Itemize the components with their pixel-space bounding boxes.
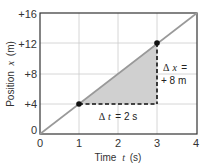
ytick-4: +4: [24, 98, 37, 110]
xtick-3: 3: [154, 137, 160, 149]
xtick-1: 1: [76, 137, 82, 149]
position-time-chart: +16 +12 +8 +4 0 0 1 2 3 4 Time t (s) Pos…: [0, 0, 204, 167]
ytick-12: +12: [18, 38, 37, 50]
ytick-16: +16: [18, 8, 37, 20]
delta-x-label-line1: Δ x =: [163, 62, 187, 73]
ytick-0: 0: [31, 124, 37, 136]
xtick-4: 4: [193, 137, 199, 149]
data-point-t1: [76, 101, 82, 107]
delta-t-label: Δ t = 2 s: [99, 111, 138, 122]
y-axis-label: Position x (m): [5, 41, 16, 107]
xtick-0: 0: [37, 137, 43, 149]
delta-x-label-line2: + 8 m: [161, 75, 186, 86]
data-point-t3: [154, 40, 160, 46]
x-axis-label: Time t (s): [95, 152, 142, 163]
xtick-2: 2: [115, 137, 121, 149]
ytick-8: +8: [24, 68, 37, 80]
